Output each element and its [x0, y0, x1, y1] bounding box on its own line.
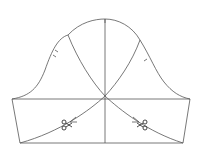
pattern-drawing: [0, 0, 197, 158]
left-side-seam: [12, 99, 20, 143]
right-slash-line: [105, 40, 183, 143]
right-arrow-icon: [132, 117, 139, 122]
sleeve-cap-curve: [12, 19, 190, 99]
front-notch: [144, 59, 147, 61]
back-notch-1: [55, 50, 58, 52]
sleeve-pattern-diagram: [0, 0, 197, 158]
right-side-seam: [183, 99, 190, 143]
back-notch-2: [53, 55, 56, 57]
